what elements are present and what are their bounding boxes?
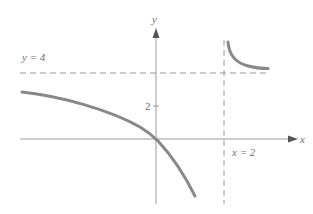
x-axis-label: x bbox=[299, 133, 305, 145]
vertical-asymptote-label: x = 2 bbox=[231, 146, 256, 158]
y-axis-label: y bbox=[151, 13, 157, 25]
curve-left-branch bbox=[22, 92, 195, 196]
function-graph: y x y = 4 x = 2 2 bbox=[0, 0, 313, 214]
curve-right-branch bbox=[228, 42, 268, 69]
x-axis-arrow-icon bbox=[288, 136, 298, 143]
horizontal-asymptote-label: y = 4 bbox=[21, 51, 46, 63]
y-axis-arrow-icon bbox=[153, 28, 160, 38]
y-tick-label-2: 2 bbox=[145, 100, 151, 112]
